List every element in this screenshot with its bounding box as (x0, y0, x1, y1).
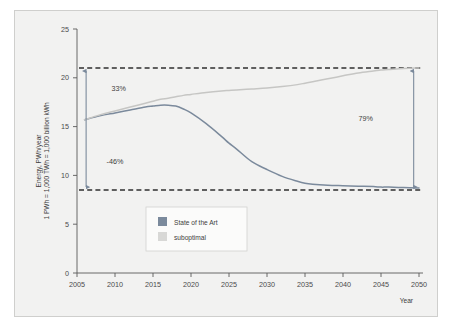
x-tick-label: 2040 (335, 280, 351, 289)
legend-label-suboptimal: suboptimal (174, 234, 206, 242)
series-group (85, 68, 419, 188)
annotation-reduction-lower-left: -46% (107, 157, 124, 166)
legend-swatch-state-of-the-art (158, 217, 167, 226)
y-axis-title-line2: 1 PWh = 1,000 TWh = 1,000 billion kWh (43, 102, 50, 219)
x-tick-group: 2005201020152020202520302035204020452050 (69, 273, 427, 289)
x-tick-label: 2035 (297, 280, 313, 289)
x-tick-label: 2015 (145, 280, 161, 289)
legend-box (146, 207, 247, 251)
series-line-suboptimal (85, 68, 419, 120)
y-tick-label: 0 (65, 269, 69, 278)
annotation-group: 33%-46%79% (107, 84, 374, 165)
legend-swatch-suboptimal (158, 232, 167, 241)
annotation-growth-upper-left: 33% (112, 84, 127, 93)
chart-panel: 0510152025 20052010201520202025203020352… (14, 10, 438, 317)
y-axis-title-line1: Energy, PWh/year (35, 134, 43, 188)
x-tick-label: 2045 (373, 280, 389, 289)
chart-legend[interactable]: State of the Art suboptimal (146, 207, 247, 251)
y-tick-label: 15 (61, 122, 69, 131)
energy-projection-line-chart: 0510152025 20052010201520202025203020352… (15, 11, 439, 318)
x-tick-label: 2010 (107, 280, 123, 289)
y-tick-label: 25 (61, 25, 69, 34)
x-axis-title: Year (400, 297, 414, 304)
annotation-gap-right: 79% (359, 114, 374, 123)
x-tick-label: 2030 (259, 280, 275, 289)
x-tick-label: 2005 (69, 280, 85, 289)
y-tick-label: 10 (61, 171, 69, 180)
y-tick-label: 5 (65, 220, 69, 229)
x-tick-label: 2020 (183, 280, 199, 289)
y-tick-group: 0510152025 (61, 25, 77, 278)
legend-label-state-of-the-art: State of the Art (174, 219, 218, 226)
x-tick-label: 2025 (221, 280, 237, 289)
reference-line-group (79, 68, 423, 190)
plot-area: 0510152025 20052010201520202025203020352… (15, 11, 439, 318)
x-tick-label: 2050 (411, 280, 427, 289)
y-tick-label: 20 (61, 73, 69, 82)
